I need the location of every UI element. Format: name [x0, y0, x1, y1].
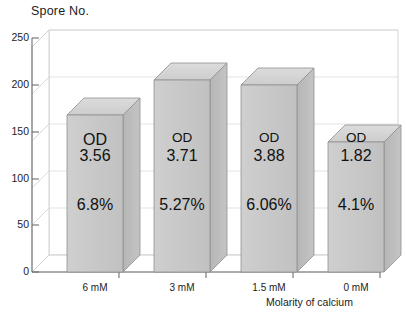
- bar-3mm-od-label: OD: [146, 131, 218, 146]
- y-tick-50: 50: [0, 218, 29, 230]
- plot-left-wall: [32, 30, 49, 272]
- bar-3mm-percent: 5.27%: [146, 196, 218, 213]
- x-tick-3mm: 3 mM: [147, 282, 217, 293]
- bar-1-5mm[interactable]: [241, 68, 314, 272]
- x-axis-title: Molarity of calcium: [266, 296, 353, 308]
- bar-chart: Spore No. 250 200 150 100 50 0 6 mM 3 mM…: [0, 0, 406, 321]
- bar-6mm-percent: 6.8%: [59, 196, 131, 213]
- bar-0mm-od-label: OD: [320, 131, 392, 146]
- x-axis: [32, 272, 381, 278]
- y-tick-100: 100: [0, 172, 29, 184]
- y-tick-200: 200: [0, 78, 29, 90]
- bar-0mm-percent: 4.1%: [320, 196, 392, 213]
- bar-3mm-od-value: 3.71: [146, 147, 218, 164]
- bar-6mm-od-label: OD: [59, 131, 131, 148]
- x-tick-6mm: 6 mM: [60, 282, 130, 293]
- bar-1-5mm-od-label: OD: [233, 131, 305, 146]
- y-tick-0: 0: [0, 265, 29, 277]
- bar-6mm[interactable]: [67, 98, 140, 272]
- y-tick-250: 250: [0, 31, 29, 43]
- x-tick-1-5mm: 1.5 mM: [234, 282, 304, 293]
- y-tick-150: 150: [0, 125, 29, 137]
- bar-1-5mm-od-value: 3.88: [233, 147, 305, 164]
- bar-0mm-od-value: 1.82: [320, 147, 392, 164]
- bar-6mm-od-value: 3.56: [59, 147, 131, 164]
- y-axis-title: Spore No.: [31, 4, 89, 18]
- x-tick-0mm: 0 mM: [321, 282, 391, 293]
- bar-3mm[interactable]: [154, 63, 227, 272]
- bar-1-5mm-percent: 6.06%: [233, 196, 305, 213]
